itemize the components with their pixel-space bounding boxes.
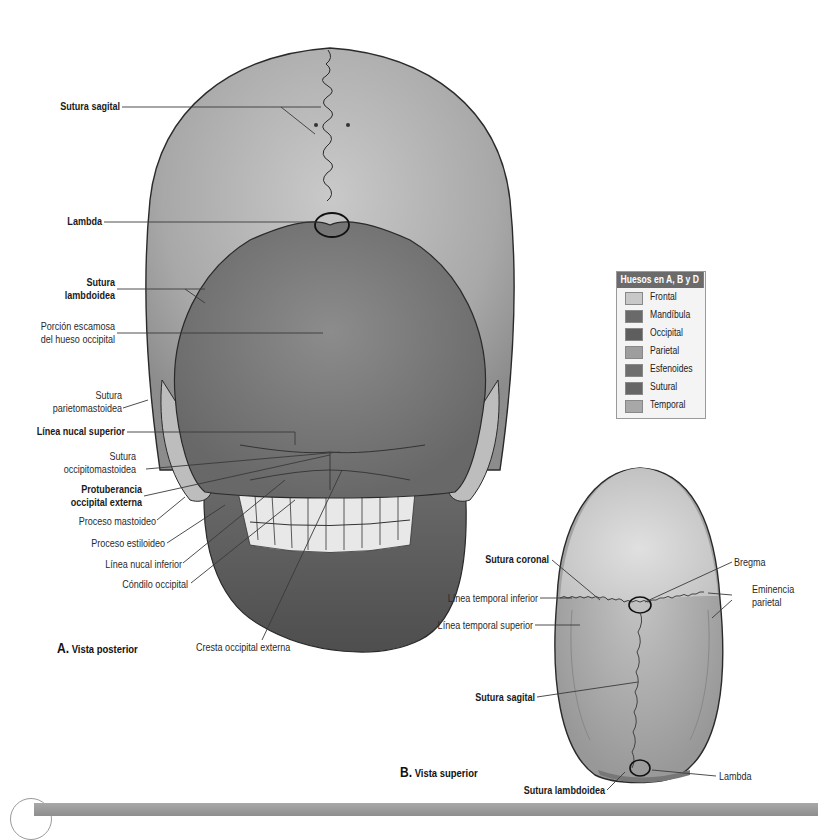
legend-label: Occipital [650, 327, 683, 338]
label-sutura-coronal: Sutura coronal [455, 553, 549, 566]
legend-item-frontal: Frontal [617, 288, 705, 306]
legend-item-temporal: Temporal [617, 396, 705, 414]
label-protuberancia-2: occipital externa [28, 496, 142, 509]
label-sutura-occipitomastoidea-2: occipitomastoidea [28, 463, 136, 476]
legend-swatch [625, 382, 643, 395]
label-condilo-occipital: Cóndilo occipital [35, 578, 188, 591]
label-eminencia-parietal-1: Eminencia [752, 583, 794, 596]
legend-item-parietal: Parietal [617, 342, 705, 360]
legend-swatch [625, 328, 643, 341]
label-porcion-escamosa-2: del hueso occipital [25, 333, 115, 346]
label-proceso-estiloideo: Proceso estiloideo [32, 537, 165, 550]
label-cresta-occipital-externa: Cresta occipital externa [196, 641, 290, 654]
legend-swatch [625, 310, 643, 323]
legend-item-mandibula: Mandíbula [617, 306, 705, 324]
label-sutura-parietomastoidea-1: Sutura [26, 389, 122, 402]
caption-vista-superior: B. Vista superior [400, 764, 478, 780]
label-lambda: Lambda [40, 215, 102, 228]
legend-swatch [625, 292, 643, 305]
label-sutura-parietomastoidea-2: parietomastoidea [26, 402, 122, 415]
label-linea-temporal-superior: Línea temporal superior [427, 619, 533, 632]
legend-item-esfenoides: Esfenoides [617, 360, 705, 378]
legend-label: Sutural [650, 381, 677, 392]
legend-swatch [625, 346, 643, 359]
label-porcion-escamosa-1: Porción escamosa [25, 320, 115, 333]
label-linea-temporal-inferior: Línea temporal inferior [437, 592, 538, 605]
legend-label: Mandíbula [650, 309, 690, 320]
label-eminencia-parietal-2: parietal [752, 596, 782, 609]
legend-title: Huesos en A, B y D [617, 272, 704, 288]
legend-label: Frontal [650, 291, 677, 302]
page-footer-bar [34, 803, 818, 816]
bone-legend: Huesos en A, B y D Frontal Mandíbula Occ… [616, 271, 706, 419]
caption-letter-a: A. [57, 640, 69, 656]
label-sutura-sagital-b: Sutura sagital [453, 691, 535, 704]
caption-text-b: Vista superior [415, 767, 478, 779]
label-protuberancia-1: Protuberancia [28, 483, 142, 496]
superior-skull [555, 468, 723, 783]
label-sutura-occipitomastoidea-1: Sutura [28, 450, 136, 463]
caption-letter-b: B. [400, 764, 412, 780]
label-linea-nucal-inferior: Línea nucal inferior [34, 558, 182, 571]
label-sutura-lambdoidea-1: Sutura [42, 276, 115, 289]
legend-label: Temporal [650, 399, 685, 410]
label-lambda-b: Lambda [719, 770, 752, 783]
legend-label: Parietal [650, 345, 679, 356]
legend-swatch [625, 364, 643, 377]
legend-label: Esfenoides [650, 363, 693, 374]
caption-text-a: Vista posterior [72, 643, 138, 655]
label-bregma: Bregma [734, 556, 766, 569]
legend-swatch [625, 400, 643, 413]
caption-vista-posterior: A. Vista posterior [57, 640, 138, 656]
label-proceso-mastoideo: Proceso mastoideo [30, 515, 156, 528]
legend-item-sutural: Sutural [617, 378, 705, 396]
label-sutura-sagital: Sutura sagital [43, 100, 120, 113]
label-linea-nucal-superior: Línea nucal superior [26, 425, 125, 438]
label-sutura-lambdoidea-2: lambdoidea [42, 289, 115, 302]
legend-item-occipital: Occipital [617, 324, 705, 342]
label-sutura-lambdoidea-b: Sutura lambdoidea [506, 784, 605, 797]
